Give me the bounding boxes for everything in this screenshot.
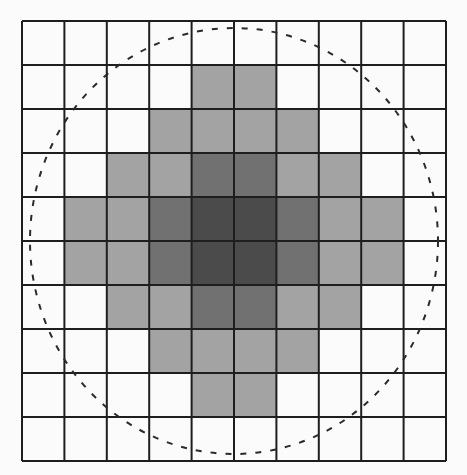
grid-cell (319, 109, 361, 153)
grid-cell (234, 153, 276, 197)
grid-cell (404, 65, 446, 109)
grid-cell (319, 373, 361, 417)
grid-cell (64, 417, 106, 461)
grid-cell (404, 241, 446, 285)
grid-cell (361, 329, 403, 373)
grid-cell (319, 197, 361, 241)
grid-cell (107, 329, 149, 373)
grid-cell (319, 153, 361, 197)
grid-cell (149, 373, 191, 417)
grid-cell (149, 197, 191, 241)
grid-cell (319, 241, 361, 285)
grid-cell (276, 241, 318, 285)
grid-cell (361, 65, 403, 109)
grid-cell (234, 197, 276, 241)
grid-cell (107, 241, 149, 285)
grid-cell (319, 65, 361, 109)
grid-cell (64, 65, 106, 109)
grid-cell (107, 65, 149, 109)
grid-cell (107, 153, 149, 197)
grid-cell (149, 417, 191, 461)
grid-cell (149, 329, 191, 373)
grid-cell (192, 241, 234, 285)
grid-cell (107, 373, 149, 417)
grid-cell (234, 241, 276, 285)
grid-cell (22, 109, 64, 153)
grid-cell (361, 109, 403, 153)
grid-cell (404, 417, 446, 461)
grid-cell (64, 285, 106, 329)
grid-cell (64, 329, 106, 373)
grid-cell (234, 285, 276, 329)
grid-cell (234, 21, 276, 65)
grid-diagram (0, 0, 467, 475)
grid-cell (361, 153, 403, 197)
grid-cell (22, 373, 64, 417)
grid-cell (149, 21, 191, 65)
grid-cell (64, 241, 106, 285)
grid-cell (276, 373, 318, 417)
grid-cell (192, 109, 234, 153)
grid-cell (22, 65, 64, 109)
grid-cell (319, 285, 361, 329)
grid-cell (404, 153, 446, 197)
grid-cell (22, 21, 64, 65)
grid-cell (22, 285, 64, 329)
grid-cell (64, 153, 106, 197)
grid-cell (404, 285, 446, 329)
grid-cell (234, 329, 276, 373)
grid-cell (107, 109, 149, 153)
grid-cell (22, 417, 64, 461)
grid-cell (276, 285, 318, 329)
grid-cell (404, 373, 446, 417)
grid-cell (361, 21, 403, 65)
grid-cell (192, 197, 234, 241)
grid-cell (22, 197, 64, 241)
grid-cell (361, 373, 403, 417)
grid-cell (276, 417, 318, 461)
grid-cell (192, 373, 234, 417)
grid-cell (234, 373, 276, 417)
grid-cell (64, 197, 106, 241)
grid-cell (22, 329, 64, 373)
grid-cell (149, 153, 191, 197)
diagram-canvas (0, 0, 467, 475)
grid-cell (276, 197, 318, 241)
grid-cell (361, 417, 403, 461)
grid-cell (149, 241, 191, 285)
grid-cell (64, 21, 106, 65)
grid-cell (404, 21, 446, 65)
grid-cell (404, 197, 446, 241)
grid-cell (149, 65, 191, 109)
grid-cell (276, 329, 318, 373)
grid-cell (276, 21, 318, 65)
grid-cell (192, 285, 234, 329)
grid-cell (22, 153, 64, 197)
grid-cell (319, 329, 361, 373)
grid-cell (64, 373, 106, 417)
grid-cell (404, 329, 446, 373)
grid-cell (22, 241, 64, 285)
grid-cell (64, 109, 106, 153)
grid-cell (319, 21, 361, 65)
grid-cell (276, 153, 318, 197)
grid-cell (192, 153, 234, 197)
grid-cell (404, 109, 446, 153)
grid-cell (361, 285, 403, 329)
grid-cell (361, 241, 403, 285)
grid-cell (107, 197, 149, 241)
grid-cell (234, 65, 276, 109)
grid-cell (149, 109, 191, 153)
grid-cell (234, 109, 276, 153)
grid-cell (361, 197, 403, 241)
grid-cell (192, 329, 234, 373)
grid-cell (276, 65, 318, 109)
grid-cell (107, 285, 149, 329)
grid-cell (192, 65, 234, 109)
grid-cell (276, 109, 318, 153)
grid-cell (149, 285, 191, 329)
grid-cell (234, 417, 276, 461)
